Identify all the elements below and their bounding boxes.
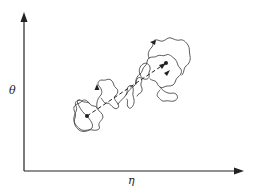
trajectory-lower-left-outer <box>74 100 93 132</box>
trajectory-middle <box>97 79 119 108</box>
random-walk-paths <box>74 38 190 132</box>
diagram-canvas <box>0 0 256 192</box>
y-axis-arrow-icon <box>21 12 28 22</box>
trajectory-middle-2 <box>118 85 134 108</box>
arrow-end-icon <box>159 63 166 69</box>
start-dot <box>85 114 89 118</box>
trajectory-upper-right <box>136 54 182 87</box>
trajectory-upper-right-inner <box>139 63 150 79</box>
arrow-up-icon <box>95 84 100 90</box>
trajectory-arrows <box>95 40 171 90</box>
x-axis-label: η <box>128 175 135 186</box>
y-axis-label: θ <box>9 85 16 96</box>
y-axis <box>21 12 28 171</box>
x-axis-arrow-icon <box>234 168 244 175</box>
arrow-right-icon <box>164 70 170 76</box>
trajectory-upper-right-loop <box>157 87 177 101</box>
